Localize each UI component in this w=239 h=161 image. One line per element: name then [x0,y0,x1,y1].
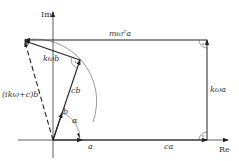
label-alpha: α [72,116,78,125]
locus-arc [24,39,97,122]
label-kwb: kωb [43,54,60,63]
phasor-diagram: Im Re mω²a kωa ca a kωb cb b α (ikω+c)b [0,0,239,161]
real-axis-label: Re [219,145,230,154]
diagram-svg: Im Re mω²a kωa ca a kωb cb b α (ikω+c)b [0,0,239,161]
vector-b [53,113,62,140]
right-angle-mark-bottom-right [199,132,207,140]
label-ca: ca [164,142,173,151]
label-mw2a: mω²a [109,29,131,38]
label-b: b [63,107,68,116]
imag-axis-label: Im [41,10,52,19]
right-angle-mark-top-right [199,40,207,48]
label-ikwc-b: (ikω+c)b [2,90,38,99]
label-a: a [88,142,93,151]
label-cb: cb [71,86,81,95]
label-kwa: kωa [210,85,226,94]
